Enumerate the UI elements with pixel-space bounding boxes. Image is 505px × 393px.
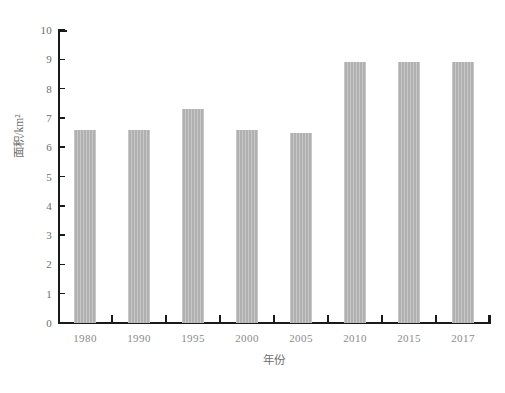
bar [344, 62, 367, 323]
y-axis-tick-label-group: 109876543210 [0, 0, 52, 393]
y-axis-tick [58, 117, 65, 119]
bar [236, 130, 259, 323]
y-axis-tick [58, 176, 65, 178]
bar-chart-figure: 109876543210 面积/km² 年份 19801990199520002… [0, 0, 505, 393]
x-axis-title: 年份 [58, 351, 490, 367]
x-axis-tick-label: 2005 [271, 332, 331, 344]
plot-area [58, 30, 490, 323]
bar [128, 130, 151, 323]
y-axis-tick [58, 146, 65, 148]
x-axis-tick-label: 2015 [379, 332, 439, 344]
bar [182, 109, 205, 323]
y-axis-tick [58, 322, 65, 324]
x-axis-tick [111, 315, 113, 324]
bar [74, 130, 97, 323]
y-axis-title: 面积/km² [10, 56, 26, 216]
bar [398, 62, 421, 323]
x-axis-tick-label: 2017 [433, 332, 493, 344]
x-axis-tick-label: 2000 [217, 332, 277, 344]
bar [290, 133, 313, 323]
y-axis-tick-label: 10 [6, 24, 52, 36]
x-axis-tick [435, 315, 437, 324]
y-axis-tick [58, 29, 65, 31]
y-axis-tick [58, 205, 65, 207]
x-axis-tick [381, 315, 383, 324]
x-axis-tick [273, 315, 275, 324]
y-axis-tick [58, 59, 65, 61]
x-axis-tick-label: 1980 [55, 332, 115, 344]
y-axis-tick-label: 0 [6, 317, 52, 329]
x-axis-tick-label: 1995 [163, 332, 223, 344]
bar [452, 62, 475, 323]
x-axis-tick-label: 2010 [325, 332, 385, 344]
y-axis-tick [58, 264, 65, 266]
y-axis-tick [58, 293, 65, 295]
y-axis-tick-label: 2 [6, 258, 52, 270]
x-axis-tick [327, 315, 329, 324]
x-axis-tick-label: 1990 [109, 332, 169, 344]
x-axis-tick [489, 315, 491, 324]
y-axis-tick [58, 234, 65, 236]
x-axis-tick [219, 315, 221, 324]
y-axis-tick [58, 88, 65, 90]
y-axis-tick-label: 1 [6, 288, 52, 300]
y-axis-tick-label: 3 [6, 229, 52, 241]
x-axis-tick [165, 315, 167, 324]
